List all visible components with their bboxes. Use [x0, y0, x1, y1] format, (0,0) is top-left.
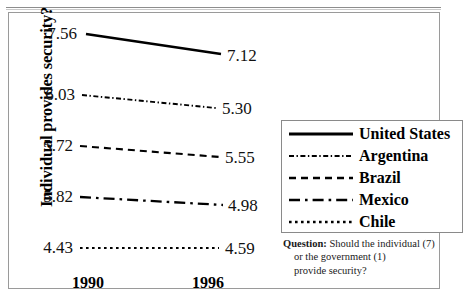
data-label-chile-1990: 4.43	[7, 239, 73, 256]
legend-label-chile: Chile	[359, 214, 395, 230]
legend-label-mexico: Mexico	[359, 192, 409, 208]
series-line-argentina	[82, 95, 216, 108]
legend: United States Argentina Brazil Mexico	[281, 120, 463, 233]
legend-sample-solid-icon	[288, 128, 354, 140]
question-note-prefix: Question:	[283, 238, 327, 249]
question-note-text-1: Should the individual (7)	[329, 238, 434, 249]
legend-item-united-states: United States	[288, 123, 458, 145]
legend-label-brazil: Brazil	[359, 170, 401, 186]
legend-item-brazil: Brazil	[288, 167, 458, 189]
data-label-united-states-1996: 7.12	[227, 47, 257, 64]
legend-item-argentina: Argentina	[288, 145, 458, 167]
series-line-brazil	[80, 146, 220, 157]
question-note-line-1: Question: Should the individual (7)	[283, 237, 467, 250]
question-note-line-3: provide security?	[283, 264, 467, 277]
legend-label-united-states: United States	[359, 126, 450, 142]
series-line-mexico	[80, 197, 223, 205]
question-note: Question: Should the individual (7) or t…	[283, 237, 467, 277]
question-note-line-2: or the government (1)	[283, 250, 467, 263]
data-label-brazil-1996: 5.55	[225, 149, 255, 166]
page-rule-top-secondary	[6, 9, 441, 10]
plot-area: 7.56 6.03 5.72 5.82 4.43 7.12 5.30 5.55 …	[37, 15, 441, 289]
legend-sample-dashed-icon	[288, 172, 354, 184]
legend-sample-dash-dot-icon	[288, 194, 354, 206]
data-label-brazil-1990: 5.72	[7, 137, 73, 154]
legend-item-chile: Chile	[288, 211, 458, 233]
legend-label-argentina: Argentina	[359, 148, 428, 164]
data-label-mexico-1996: 4.98	[228, 197, 258, 214]
x-tick-1996: 1996	[192, 274, 224, 292]
legend-sample-dotted-icon	[288, 216, 354, 228]
legend-sample-dash-dot-fine-icon	[288, 150, 354, 162]
series-line-united-states	[86, 34, 221, 54]
data-label-mexico-1990: 5.82	[7, 188, 73, 205]
data-label-chile-1996: 4.59	[225, 240, 255, 257]
x-tick-1990: 1990	[72, 274, 104, 292]
page-rule-top	[6, 7, 441, 8]
data-label-argentina-1990: 6.03	[9, 86, 75, 103]
figure-frame: Individual provides security? 7.56 6.03 …	[8, 12, 440, 289]
data-label-united-states-1990: 7.56	[11, 25, 77, 42]
data-label-argentina-1996: 5.30	[222, 100, 252, 117]
legend-item-mexico: Mexico	[288, 189, 458, 211]
